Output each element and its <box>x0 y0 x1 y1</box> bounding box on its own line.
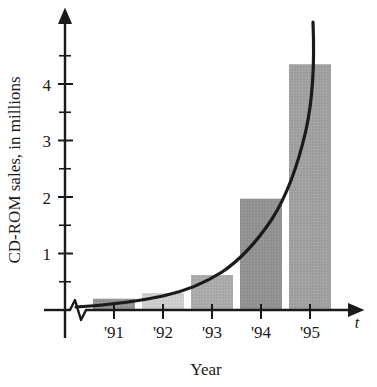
x-variable-label: t <box>355 314 360 331</box>
x-tick-label-1992: '92 <box>153 323 173 342</box>
x-tick-label-1994: '94 <box>251 323 272 342</box>
x-axis-title: Year <box>190 360 222 379</box>
chart-figure: 1 2 3 4 '91 '92 '93 '94 '95 <box>0 0 377 387</box>
y-tick-label-4: 4 <box>43 76 52 95</box>
x-tick-label-1991: '91 <box>104 323 124 342</box>
y-tick-label-1: 1 <box>43 245 52 264</box>
x-tick-label-1995: '95 <box>300 323 320 342</box>
x-tick-label-1993: '93 <box>202 323 222 342</box>
y-tick-label-3: 3 <box>43 132 52 151</box>
y-tick-label-2: 2 <box>43 189 52 208</box>
y-axis-title: CD-ROM sales, in millions <box>5 76 24 263</box>
bars-group <box>93 64 331 310</box>
axis-break-zigzag <box>70 300 86 320</box>
y-axis-group: 1 2 3 4 <box>43 22 74 338</box>
cd-rom-sales-chart: 1 2 3 4 '91 '92 '93 '94 '95 <box>0 0 377 387</box>
